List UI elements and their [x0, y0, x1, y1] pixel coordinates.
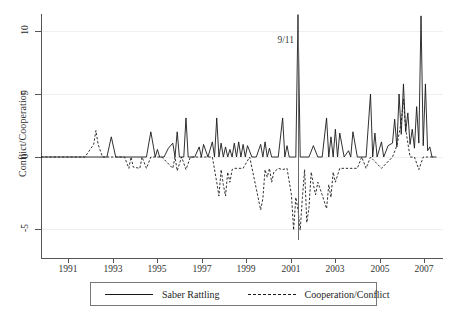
legend-swatch-solid-icon	[105, 294, 153, 295]
legend-entry-cooperation-conflict: Cooperation/Conflict	[248, 283, 390, 305]
series-line-saber-rattling	[41, 15, 434, 157]
legend-swatch-dashed-icon	[248, 294, 296, 295]
legend-entry-saber-rattling: Saber Rattling	[105, 283, 220, 305]
series-line-cooperation-conflict	[41, 99, 436, 230]
legend-label-cooperation-conflict: Cooperation/Conflict	[305, 289, 390, 300]
event-line-911	[298, 15, 299, 241]
series-canvas	[0, 0, 450, 314]
event-label-911: 9/11	[277, 35, 294, 45]
chart-legend: Saber Rattling Cooperation/Conflict	[90, 282, 377, 306]
chart-figure: 10 5 0 -5 Conflict/Cooperation 1991 1993…	[0, 0, 450, 314]
legend-label-saber-rattling: Saber Rattling	[162, 289, 220, 300]
